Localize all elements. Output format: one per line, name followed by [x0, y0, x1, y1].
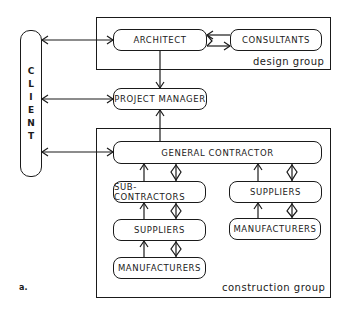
architect-node: ARCHITECT [113, 29, 207, 51]
figure-label: a. [19, 283, 27, 292]
client-letter: I [29, 91, 32, 104]
project-manager-node: PROJECT MANAGER [113, 88, 207, 110]
construction-group-label: construction group [222, 282, 325, 293]
general-contractor-node: GENERAL CONTRACTOR [113, 141, 322, 164]
consultants-node: CONSULTANTS [230, 29, 322, 51]
design-group-label: design group [253, 56, 324, 67]
sub-contractors-node: SUB-CONTRACTORS [113, 181, 206, 203]
client-letter: C [28, 65, 35, 78]
client-letter: N [27, 117, 35, 130]
manufacturers-left-node: MANUFACTURERS [113, 257, 206, 279]
client-letter: T [28, 130, 34, 143]
suppliers-left-node: SUPPLIERS [113, 219, 206, 241]
client-node: C L I E N T [20, 30, 42, 177]
suppliers-right-node: SUPPLIERS [229, 181, 322, 203]
client-letter: L [28, 78, 34, 91]
client-letter: E [28, 104, 34, 117]
manufacturers-right-node: MANUFACTURERS [229, 218, 321, 240]
